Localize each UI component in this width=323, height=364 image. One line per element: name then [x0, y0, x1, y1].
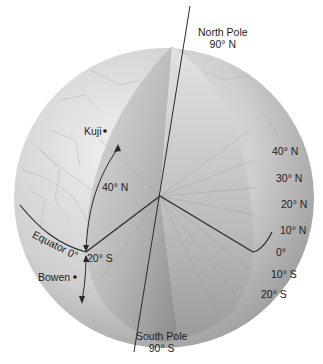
lat-scale-40n: 40° N [272, 145, 298, 157]
south-pole-name: South Pole [136, 330, 187, 342]
bowen-dot [73, 275, 77, 279]
lat-scale-20s: 20° S [261, 288, 287, 300]
north-pole-label: North Pole 90° N [198, 26, 248, 50]
lat-scale-20n: 20° N [281, 198, 307, 210]
lat-scale-10n: 10° N [280, 224, 306, 236]
place-bowen: Bowen [38, 271, 70, 283]
kuji-dot [103, 129, 107, 133]
south-pole-label: South Pole 90° S [136, 330, 187, 354]
angle-label-40n: 40° N [102, 181, 128, 193]
south-pole-latitude: 90° S [136, 342, 187, 354]
lat-scale-0: 0° [276, 246, 286, 258]
angle-label-20s: 20° S [87, 252, 113, 264]
north-pole-name: North Pole [198, 26, 248, 38]
lat-scale-10s: 10° S [271, 268, 297, 280]
place-kuji: Kuji [84, 125, 102, 137]
globe-diagram [0, 0, 323, 364]
north-pole-latitude: 90° N [198, 38, 248, 50]
lat-scale-30n: 30° N [276, 172, 302, 184]
